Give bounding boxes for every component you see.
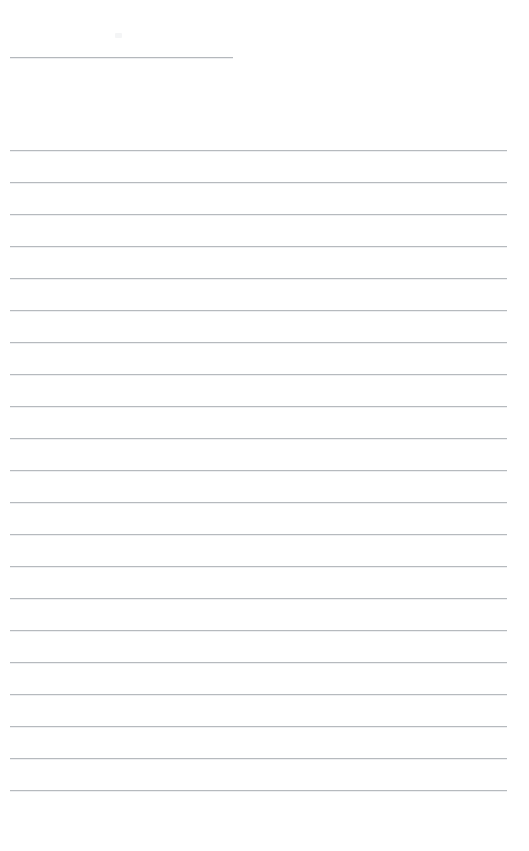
note-line-input[interactable] bbox=[10, 216, 507, 246]
note-line-input[interactable] bbox=[10, 312, 507, 342]
note-line-input[interactable] bbox=[10, 120, 507, 150]
note-line-input[interactable] bbox=[10, 632, 507, 662]
rule-line bbox=[10, 214, 507, 215]
note-line-input[interactable] bbox=[10, 248, 507, 278]
rule-line bbox=[10, 150, 507, 151]
rule-line bbox=[10, 662, 507, 663]
rule-line bbox=[10, 438, 507, 439]
note-line-input[interactable] bbox=[10, 184, 507, 214]
note-line-input[interactable] bbox=[10, 664, 507, 694]
note-line-input[interactable] bbox=[10, 152, 507, 182]
rule-line bbox=[10, 470, 507, 471]
rule-line bbox=[10, 246, 507, 247]
lined-note-page bbox=[0, 0, 529, 851]
rule-line bbox=[10, 758, 507, 759]
note-line-input[interactable] bbox=[10, 376, 507, 406]
rule-line bbox=[10, 406, 507, 407]
note-line-input[interactable] bbox=[10, 440, 507, 470]
rule-line bbox=[10, 790, 507, 791]
note-line-input[interactable] bbox=[10, 536, 507, 566]
rule-line bbox=[10, 342, 507, 343]
note-line-input[interactable] bbox=[10, 344, 507, 374]
note-line-input[interactable] bbox=[10, 696, 507, 726]
rule-line bbox=[10, 374, 507, 375]
note-line-input[interactable] bbox=[10, 472, 507, 502]
note-line-input[interactable] bbox=[10, 760, 507, 790]
rule-line bbox=[10, 182, 507, 183]
rule-line bbox=[10, 502, 507, 503]
rule-line bbox=[10, 278, 507, 279]
note-line-input[interactable] bbox=[10, 408, 507, 438]
rule-line bbox=[10, 694, 507, 695]
rule-line bbox=[10, 534, 507, 535]
rule-line bbox=[10, 566, 507, 567]
note-line-input[interactable] bbox=[10, 280, 507, 310]
rule-line bbox=[10, 726, 507, 727]
rule-line bbox=[10, 310, 507, 311]
note-line-input[interactable] bbox=[10, 600, 507, 630]
ruled-lines-group bbox=[0, 0, 529, 851]
note-line-input[interactable] bbox=[10, 728, 507, 758]
note-line-input[interactable] bbox=[10, 504, 507, 534]
rule-line bbox=[10, 598, 507, 599]
rule-line bbox=[10, 630, 507, 631]
note-line-input[interactable] bbox=[10, 568, 507, 598]
